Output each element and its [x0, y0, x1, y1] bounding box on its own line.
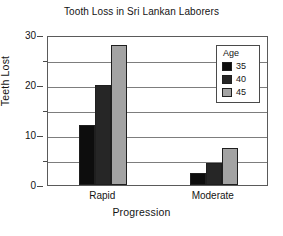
legend-swatch	[222, 75, 232, 84]
legend: Age 354045	[216, 45, 260, 103]
bar-chart: Tooth Loss in Sri Lankan Laborers Teeth …	[0, 0, 283, 236]
legend-entry[interactable]: 35	[217, 60, 259, 73]
y-tick-mark	[37, 86, 43, 87]
y-tick-mark	[37, 136, 43, 137]
y-tick-label: 10	[25, 131, 36, 141]
x-tick-label: Rapid	[89, 190, 115, 201]
y-tick-label: 20	[25, 81, 36, 91]
y-axis-tick-labels: 0102030	[0, 36, 43, 186]
legend-title: Age	[217, 48, 259, 60]
y-tick-mark	[37, 186, 43, 187]
legend-entries: 354045	[217, 60, 259, 99]
legend-label: 45	[236, 86, 246, 98]
y-tick-mark	[37, 36, 43, 37]
bar[interactable]	[222, 148, 238, 186]
bar[interactable]	[111, 45, 127, 185]
bar[interactable]	[190, 173, 206, 186]
bar[interactable]	[79, 125, 95, 185]
legend-swatch	[222, 62, 232, 71]
y-tick-label: 0	[30, 181, 36, 191]
legend-label: 40	[236, 73, 246, 85]
chart-title: Tooth Loss in Sri Lankan Laborers	[0, 6, 283, 17]
y-tick-label: 30	[25, 31, 36, 41]
bar[interactable]	[206, 163, 222, 186]
legend-entry[interactable]: 40	[217, 73, 259, 86]
bar[interactable]	[95, 85, 111, 185]
legend-label: 35	[236, 60, 246, 72]
x-tick-label: Moderate	[192, 190, 234, 201]
legend-swatch	[222, 88, 232, 97]
legend-entry[interactable]: 45	[217, 86, 259, 99]
x-axis-title: Progression	[0, 206, 283, 218]
bar-group	[79, 37, 127, 185]
